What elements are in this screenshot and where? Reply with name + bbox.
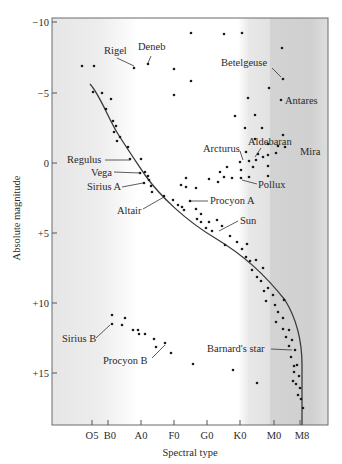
x-tick-label: A0	[135, 430, 148, 441]
x-tick-label: M8	[295, 430, 310, 441]
x-tick-label: B0	[104, 430, 116, 441]
x-tick-label: O5	[86, 430, 99, 441]
y-tick-label: +15	[33, 368, 49, 379]
y-tick-label: −5	[38, 88, 49, 99]
label-barnards-star: Barnard's star	[207, 343, 265, 354]
hr-diagram: −10 −5 0 +5 +10 +15 Absolute magnitude O…	[0, 0, 342, 464]
label-aldebaran: Aldebaran	[248, 136, 292, 147]
x-tick-label: F0	[168, 430, 179, 441]
m-type-band	[270, 18, 328, 425]
label-procyon-b: Procyon B	[103, 355, 148, 366]
y-axis: −10 −5 0 +5 +10 +15 Absolute magnitude	[11, 17, 57, 379]
x-tick-label: G0	[201, 430, 214, 441]
label-mira: Mira	[300, 146, 321, 157]
y-tick-label: 0	[44, 158, 49, 169]
label-pollux: Pollux	[258, 179, 286, 190]
label-sirius-a: Sirius A	[87, 181, 122, 192]
x-tick-label: K0	[234, 430, 247, 441]
label-sirius-b: Sirius B	[62, 333, 96, 344]
y-tick-label: +5	[38, 228, 49, 239]
y-axis-title: Absolute magnitude	[11, 175, 22, 260]
x-tick-label: M0	[267, 430, 282, 441]
x-axis-title: Spectral type	[162, 447, 217, 458]
label-deneb: Deneb	[138, 41, 165, 52]
label-regulus: Regulus	[67, 154, 101, 165]
label-procyon-a: Procyon A	[210, 195, 255, 206]
x-axis: O5 B0 A0 F0 G0 K0 M0 M8 Spectral type	[86, 420, 310, 458]
y-tick-label: +10	[33, 298, 49, 309]
label-rigel: Rigel	[104, 45, 127, 56]
label-arcturus: Arcturus	[203, 143, 240, 154]
label-antares: Antares	[285, 95, 318, 106]
label-altair: Altair	[117, 205, 142, 216]
label-vega: Vega	[91, 167, 112, 178]
label-betelgeuse: Betelgeuse	[221, 57, 267, 68]
y-tick-label: −10	[33, 17, 49, 28]
label-sun: Sun	[240, 215, 257, 226]
